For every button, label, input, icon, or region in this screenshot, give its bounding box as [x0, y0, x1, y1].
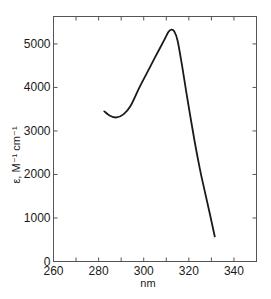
- y-tick-label: 3000: [24, 124, 51, 138]
- x-axis-tick-labels: 260280300320340: [43, 264, 244, 278]
- x-tick-label: 280: [89, 264, 109, 278]
- plot-frame: [54, 17, 257, 262]
- y-tick-label: 5000: [24, 37, 51, 51]
- y-tick-label: 2000: [24, 167, 51, 181]
- y-axis-tick-labels: 010002000300040005000: [24, 37, 51, 269]
- x-tick-label: 300: [134, 264, 154, 278]
- chart: 260280300320340 010002000300040005000 nm…: [0, 0, 271, 299]
- x-axis-ticks: [54, 17, 257, 262]
- y-axis-label: ε, M⁻¹ cm⁻¹: [10, 126, 22, 184]
- y-tick-label: 4000: [24, 80, 51, 94]
- y-tick-label: 1000: [24, 211, 51, 225]
- y-tick-label: 0: [44, 255, 51, 269]
- y-axis-ticks: [54, 44, 257, 262]
- spectrum-curve: [104, 30, 215, 237]
- x-tick-label: 320: [179, 264, 199, 278]
- x-axis-label: nm: [140, 277, 155, 289]
- x-tick-label: 340: [224, 264, 244, 278]
